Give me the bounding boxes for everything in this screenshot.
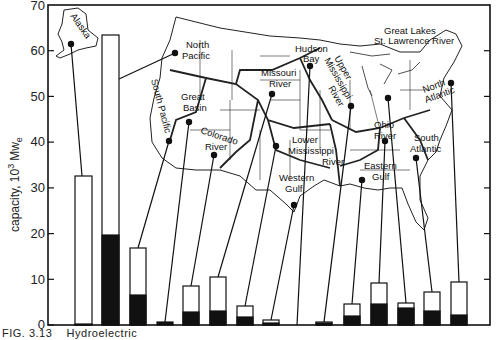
great-lakes xyxy=(350,52,420,96)
bar-great-basin-developed xyxy=(157,322,173,325)
label-lower-miss-2: Mississippi xyxy=(288,145,334,156)
y-tick-70: 70 xyxy=(31,0,45,13)
y-tick-labels: 0 10 20 30 40 50 60 70 xyxy=(31,0,45,332)
bar-north-atlantic-developed xyxy=(451,315,467,325)
y-tick-60: 60 xyxy=(31,43,45,58)
bar-lower-miss-developed xyxy=(237,317,253,325)
label-ohio-2: River xyxy=(374,130,396,141)
bar-missouri-developed xyxy=(210,311,226,325)
bar-ohio-2-developed xyxy=(398,308,414,325)
label-south-atlantic-2: Atlantic xyxy=(410,143,441,154)
label-lower-miss-3: River xyxy=(322,156,344,167)
bar-alaska xyxy=(75,176,92,325)
label-hudson-2: Bay xyxy=(303,53,320,64)
y-tick-40: 40 xyxy=(31,134,45,149)
y-tick-20: 20 xyxy=(31,226,45,241)
bar-colorado-developed xyxy=(183,312,199,325)
bar-eastern-gulf-developed xyxy=(344,316,360,325)
bar-south-atlantic-developed xyxy=(424,311,440,325)
label-missouri: Missouri xyxy=(261,67,296,78)
figure-caption: FIG. 3.13 Hydroelectric xyxy=(2,327,137,339)
bar-western-gulf-developed xyxy=(263,323,279,325)
label-colorado-2: River xyxy=(205,141,227,152)
label-great-lakes-2: St. Lawrence River xyxy=(374,35,454,46)
bar-ohio-developed xyxy=(371,304,387,325)
label-eastern-gulf-2: Gulf xyxy=(372,171,390,182)
leader-lines xyxy=(68,41,459,325)
label-western-gulf: Western xyxy=(279,172,314,183)
bar-south-pacific-developed xyxy=(130,295,146,325)
y-axis-label: capacity, 103Mwe xyxy=(6,137,24,232)
label-south-atlantic: South xyxy=(414,132,439,143)
label-great-basin-2: Basin xyxy=(183,102,207,113)
map-labels: Alaska North Pacific South Pacific Great… xyxy=(68,11,456,194)
y-tick-30: 30 xyxy=(31,180,45,195)
label-north-pacific-2: Pacific xyxy=(182,50,210,61)
bar-north-pacific-developed xyxy=(102,235,119,325)
hydro-capacity-chart: 0 10 20 30 40 50 60 70 capacity, 103Mwe xyxy=(0,0,496,340)
label-western-gulf-2: Gulf xyxy=(285,183,303,194)
bar-upper-miss-developed xyxy=(316,323,332,325)
label-missouri-2: River xyxy=(269,78,291,89)
y-tick-10: 10 xyxy=(31,272,45,287)
bar-alaska-developed xyxy=(75,324,92,325)
label-north-pacific: North xyxy=(186,39,209,50)
label-great-basin: Great xyxy=(181,91,205,102)
label-alaska: Alaska xyxy=(68,11,94,41)
label-lower-miss: Lower xyxy=(292,134,318,145)
label-eastern-gulf: Eastern xyxy=(364,160,397,171)
y-tick-50: 50 xyxy=(31,89,45,104)
label-ohio: Ohio xyxy=(374,119,394,130)
